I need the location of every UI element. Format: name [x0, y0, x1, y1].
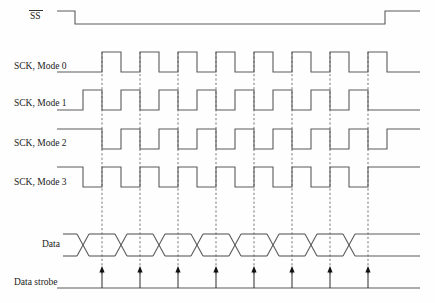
strobe-arrow-head-icon [251, 266, 256, 273]
label-ss: SS [30, 11, 41, 21]
strobe-arrow-head-icon [289, 266, 294, 273]
waveform-sck-mode-3 [57, 167, 420, 187]
label-sck-mode-3: SCK, Mode 3 [14, 177, 67, 187]
spi-timing-diagram: SS SCK, Mode 0 SCK, Mode 1 SCK, Mode 2 S… [0, 0, 435, 303]
waveform-sck-mode-1 [57, 90, 420, 110]
sck-mode-1-waveform-path [57, 90, 420, 110]
sck-mode-3-waveform-path [57, 167, 420, 187]
strobe-arrow-head-icon [327, 266, 332, 273]
waveform-ss [57, 11, 420, 24]
waveform-sck-mode-2 [57, 129, 420, 149]
data-strobe-arrows [57, 266, 420, 288]
label-data-strobe: Data strobe [14, 277, 58, 287]
timing-waveform-canvas: SS SCK, Mode 0 SCK, Mode 1 SCK, Mode 2 S… [0, 0, 435, 303]
strobe-arrow-head-icon [213, 266, 218, 273]
label-sck-mode-1: SCK, Mode 1 [14, 98, 67, 108]
clock-gridlines [102, 52, 368, 276]
label-sck-mode-2: SCK, Mode 2 [14, 138, 67, 148]
label-sck-mode-0: SCK, Mode 0 [14, 61, 67, 71]
label-data: Data [42, 239, 61, 249]
strobe-arrow-head-icon [99, 266, 104, 273]
waveform-sck-mode-0 [57, 52, 420, 72]
ss-waveform-path [57, 11, 420, 24]
sck-mode-0-waveform-path [57, 52, 420, 72]
strobe-arrow-head-icon [137, 266, 142, 273]
sck-mode-2-waveform-path [57, 129, 420, 149]
strobe-arrow-head-icon [365, 266, 370, 273]
signal-labels: SS SCK, Mode 0 SCK, Mode 1 SCK, Mode 2 S… [14, 11, 67, 288]
data-bus-waveform [63, 234, 420, 256]
strobe-arrow-head-icon [175, 266, 180, 273]
